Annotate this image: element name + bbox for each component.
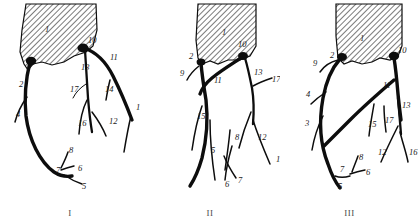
callout-label-1: 1 xyxy=(222,27,226,37)
callout-label-12: 12 xyxy=(109,116,118,126)
callout-label-15: 15 xyxy=(368,119,377,129)
callout-label-6: 6 xyxy=(78,163,83,173)
callout-label-12: 12 xyxy=(378,147,387,157)
callout-label-13: 13 xyxy=(402,100,411,110)
figure-root: I xyxy=(0,0,419,224)
panel-i-labels: 11011132171441516128765 xyxy=(0,0,140,210)
callout-label-5: 5 xyxy=(82,181,86,191)
callout-label-6: 6 xyxy=(225,179,230,189)
callout-label-16: 16 xyxy=(409,147,418,157)
callout-label-1: 1 xyxy=(45,24,49,34)
callout-label-2: 2 xyxy=(330,50,335,60)
callout-label-5: 5 xyxy=(211,145,215,155)
callout-label-11: 11 xyxy=(383,80,391,90)
callout-label-7: 7 xyxy=(56,165,61,175)
callout-label-17: 17 xyxy=(70,84,79,94)
callout-label-17: 17 xyxy=(385,115,394,125)
callout-label-12: 12 xyxy=(258,132,267,142)
callout-label-8: 8 xyxy=(359,152,364,162)
callout-label-11: 11 xyxy=(110,52,118,62)
callout-label-7: 7 xyxy=(238,175,243,185)
callout-label-16: 16 xyxy=(78,118,87,128)
callout-label-4: 4 xyxy=(16,109,21,119)
callout-label-10: 10 xyxy=(398,45,407,55)
callout-label-17: 17 xyxy=(272,74,280,84)
callout-label-9: 9 xyxy=(313,58,318,68)
callout-label-3: 3 xyxy=(304,118,309,128)
callout-label-13: 13 xyxy=(81,62,90,72)
callout-label-4: 4 xyxy=(306,89,311,99)
callout-label-10: 10 xyxy=(238,39,247,49)
callout-label-11: 11 xyxy=(214,75,222,85)
panel-ii-labels: 110291113171585121567 xyxy=(140,0,280,210)
callout-label-10: 10 xyxy=(88,35,97,45)
callout-label-6: 6 xyxy=(366,167,371,177)
callout-label-5: 5 xyxy=(338,181,342,191)
callout-label-8: 8 xyxy=(235,132,240,142)
callout-label-7: 7 xyxy=(340,164,345,174)
callout-label-8: 8 xyxy=(69,145,74,155)
panel-iii-labels: 11029114133151712168765 xyxy=(280,0,419,210)
callout-label-9: 9 xyxy=(180,68,185,78)
callout-label-15: 15 xyxy=(197,111,206,121)
callout-label-1: 1 xyxy=(360,33,364,43)
callout-label-14: 14 xyxy=(105,84,114,94)
callout-label-13: 13 xyxy=(254,67,263,77)
callout-label-2: 2 xyxy=(189,51,194,61)
callout-label-2: 2 xyxy=(19,79,24,89)
